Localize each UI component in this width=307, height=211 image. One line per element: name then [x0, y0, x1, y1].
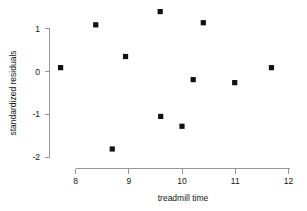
data-point — [232, 80, 237, 85]
data-point — [201, 20, 206, 25]
y-axis-title: standardized residuals — [8, 50, 18, 135]
data-point — [191, 77, 196, 82]
chart-canvas: 10-1-2 89101112 treadmill time standardi… — [0, 0, 307, 211]
x-tick-label: 9 — [126, 176, 131, 186]
x-tick-label: 11 — [231, 176, 240, 186]
y-tick-labels: 10-1-2 — [32, 24, 40, 162]
x-axis-title: treadmill time — [158, 193, 209, 203]
plot-area: 10-1-2 89101112 treadmill time standardi… — [0, 0, 307, 211]
data-point — [123, 54, 128, 59]
x-tick-label: 12 — [284, 176, 294, 186]
y-tick-label: 1 — [35, 24, 40, 34]
y-tick-marks — [45, 29, 50, 157]
data-point — [110, 146, 115, 151]
x-tick-marks — [76, 169, 289, 174]
x-tick-label: 8 — [73, 176, 78, 186]
y-tick-label: -2 — [32, 152, 40, 162]
y-tick-label: -1 — [32, 109, 40, 119]
data-point — [158, 114, 163, 119]
data-point — [269, 65, 274, 70]
data-point — [93, 22, 98, 27]
data-point-series — [58, 9, 274, 152]
x-tick-labels: 89101112 — [73, 176, 293, 186]
x-tick-label: 10 — [177, 176, 187, 186]
y-tick-label: 0 — [35, 67, 40, 77]
data-point — [158, 9, 163, 14]
data-point — [58, 65, 63, 70]
data-point — [179, 124, 184, 129]
scatter-plot-figure: 10-1-2 89101112 treadmill time standardi… — [0, 0, 307, 211]
